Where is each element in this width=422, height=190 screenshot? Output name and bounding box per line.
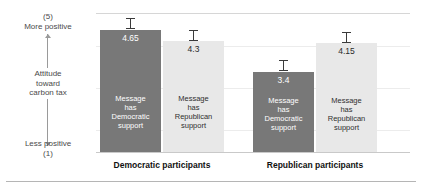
- bar-inner-label-line2: has: [316, 105, 377, 114]
- bar-republican-participants-republican-message[interactable]: 4.15 Message has Republican support: [316, 43, 377, 152]
- x-axis-baseline: [96, 152, 410, 153]
- bar-inner-label-line3: Democratic: [100, 112, 161, 121]
- bar-inner-label-line2: has: [163, 103, 224, 112]
- bar-inner-label-line3: Republican: [163, 112, 224, 121]
- error-bar-cap-top: [342, 32, 351, 33]
- bar-inner-label-line2: has: [100, 103, 161, 112]
- bar-inner-label-line4: support: [316, 123, 377, 132]
- bar-inner-label-line3: Democratic: [253, 114, 314, 123]
- y-axis-bottom-text: Less positive: [0, 139, 96, 149]
- figure-bottom-rule: [6, 181, 416, 182]
- y-axis-title-line2: toward: [0, 79, 96, 89]
- bar-democratic-participants-republican-message[interactable]: 4.3 Message has Republican support: [163, 41, 224, 152]
- bar-value-label: 4.3: [163, 44, 224, 54]
- bar-democratic-participants-democratic-message[interactable]: 4.65 Message has Democratic support: [100, 30, 161, 152]
- bar-value-label: 4.15: [316, 46, 377, 56]
- bar-inner-label-line1: Message: [253, 96, 314, 105]
- bar-inner-label-line1: Message: [163, 94, 224, 103]
- bar-inner-label-line2: has: [253, 105, 314, 114]
- y-axis-title-line1: Attitude: [0, 69, 96, 79]
- x-axis-group-label-republican: Republican participants: [253, 160, 377, 170]
- y-axis: (5) More positive Attitude toward carbon…: [0, 12, 96, 158]
- bar-inner-label-line4: support: [253, 123, 314, 132]
- bar-inner-label-line1: Message: [100, 94, 161, 103]
- bar-republican-participants-democratic-message[interactable]: 3.4 Message has Democratic support: [253, 72, 314, 152]
- error-bar-cap-top: [189, 30, 198, 31]
- bar-inner-label-line4: support: [163, 121, 224, 130]
- error-bar: [126, 18, 135, 29]
- y-axis-top-value: (5): [0, 12, 96, 22]
- x-axis-group-label-democratic: Democratic participants: [100, 160, 224, 170]
- error-bar: [342, 32, 351, 43]
- error-bar-cap-bottom: [126, 28, 135, 29]
- bar-inner-label-line4: support: [100, 121, 161, 130]
- bar-chart-figure: (5) More positive Attitude toward carbon…: [0, 0, 422, 190]
- y-axis-top-text: More positive: [0, 22, 96, 32]
- bar-inner-label-line3: Republican: [316, 114, 377, 123]
- error-bar-cap-bottom: [279, 70, 288, 71]
- bar-inner-label-line1: Message: [316, 96, 377, 105]
- error-bar: [279, 60, 288, 71]
- y-axis-bottom-value: (1): [0, 149, 96, 159]
- y-axis-title: Attitude toward carbon tax: [0, 68, 96, 99]
- error-bar: [189, 30, 198, 41]
- bar-value-label: 3.4: [253, 75, 314, 85]
- error-bar-cap-top: [126, 18, 135, 19]
- error-bar-cap-top: [279, 60, 288, 61]
- y-axis-title-line3: carbon tax: [0, 88, 96, 98]
- y-axis-bottom-label: Less positive (1): [0, 139, 96, 158]
- bar-value-label: 4.65: [100, 33, 161, 43]
- y-axis-top-label: (5) More positive: [0, 12, 96, 31]
